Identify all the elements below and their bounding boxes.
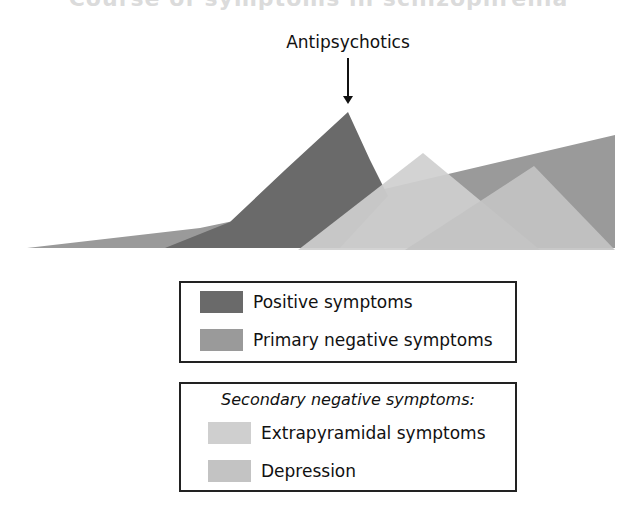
swatch-depression (208, 460, 251, 482)
legend-primary: Positive symptoms Primary negative sympt… (179, 281, 517, 363)
swatch-primary-negative (200, 329, 243, 351)
legend-item-positive: Positive symptoms (200, 291, 413, 313)
legend-secondary: Secondary negative symptoms: Extrapyrami… (179, 382, 517, 492)
legend-item-primary-negative: Primary negative symptoms (200, 329, 493, 351)
arrow-head-icon (343, 96, 353, 104)
legend-secondary-heading: Secondary negative symptoms: (181, 390, 515, 409)
legend-label: Depression (261, 461, 356, 481)
legend-label: Positive symptoms (253, 292, 413, 312)
legend-label: Extrapyramidal symptoms (261, 423, 486, 443)
legend-label: Primary negative symptoms (253, 330, 493, 350)
swatch-extrapyramidal (208, 422, 251, 444)
antipsychotics-label: Antipsychotics (278, 32, 418, 52)
legend-item-depression: Depression (208, 460, 356, 482)
legend-item-extrapyramidal: Extrapyramidal symptoms (208, 422, 486, 444)
swatch-positive (200, 291, 243, 313)
down-arrow-icon (347, 58, 349, 98)
